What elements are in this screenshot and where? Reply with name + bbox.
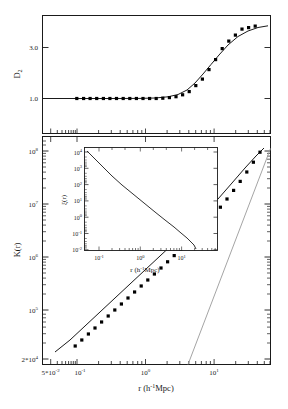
figure-container: 1.0 3.0 D2	[0, 0, 288, 409]
main-panel-x-tick-labels: 5*10-2 10-1 100 101	[42, 368, 220, 377]
main-xtick-em1-exp: -1	[81, 368, 86, 373]
main-x-axis-title-b: Mpc)	[155, 383, 174, 393]
top-panel-y-axis-title: D2	[12, 69, 23, 78]
main-xtick-e1-exp: 1	[216, 368, 219, 373]
inset-panel-x-axis-title: r (h-1Mpc)	[130, 266, 160, 275]
svg-text:107: 107	[29, 200, 39, 209]
main-x-axis-title-a: r (h	[138, 383, 151, 393]
svg-text:5*10-2: 5*10-2	[42, 368, 61, 377]
main-ytick-bottom-exp: 4	[36, 355, 39, 360]
top-panel-ytick-label-3: 3.0	[29, 44, 38, 52]
main-panel-y-axis-title-text: K(r)	[12, 243, 22, 258]
main-ytick-e7-exp: 7	[36, 200, 39, 205]
inset-xtick-e1-exp: 1	[183, 254, 185, 259]
inset-panel-y-axis-title: ξ(r)	[60, 194, 68, 205]
main-ytick-e5-exp: 5	[36, 306, 39, 311]
svg-text:2*104: 2*104	[22, 355, 39, 364]
main-xtick-first-coef: 5*10	[42, 369, 57, 377]
inset-panel-y-axis-title-text: ξ(r)	[60, 194, 68, 205]
inset-panel-frame	[85, 148, 218, 251]
inset-ytick-e1-exp: 1	[80, 197, 82, 202]
main-panel-y-tick-labels: 2*104 105 106 107 108	[22, 147, 39, 364]
svg-text:101: 101	[209, 368, 219, 377]
main-ytick-e8-exp: 8	[36, 147, 39, 152]
scientific-figure: 1.0 3.0 D2	[0, 0, 288, 409]
svg-text:105: 105	[29, 306, 39, 315]
main-panel-x-axis-title: r (h-1Mpc)	[138, 383, 174, 393]
top-panel-frame	[43, 16, 271, 134]
inset-x-axis-title-a: r (h	[130, 266, 140, 274]
inset-xtick-em1-exp: -1	[100, 254, 104, 259]
main-xtick-first-exp: -2	[56, 368, 61, 373]
svg-text:100: 100	[141, 368, 151, 377]
inset-x-axis-title-b: Mpc)	[144, 266, 160, 274]
inset-ytick-em2-exp: -2	[78, 246, 82, 251]
svg-text:108: 108	[29, 147, 39, 156]
main-ytick-e6-exp: 6	[36, 253, 39, 258]
svg-text:106: 106	[29, 253, 39, 262]
main-ytick-bottom-coef: 2*10	[22, 356, 37, 364]
top-panel-ytick-label-1: 1.0	[29, 95, 38, 103]
svg-text:10-1: 10-1	[74, 368, 86, 377]
main-panel-y-axis-title: K(r)	[12, 243, 22, 258]
svg-text:D2: D2	[12, 69, 23, 78]
top-panel-y-axis-title-sub: 2	[17, 69, 23, 72]
main-xtick-e0-exp: 0	[148, 368, 151, 373]
inset-ytick-em1-exp: -1	[78, 230, 82, 235]
inset-ytick-e2-exp: 2	[80, 181, 82, 186]
